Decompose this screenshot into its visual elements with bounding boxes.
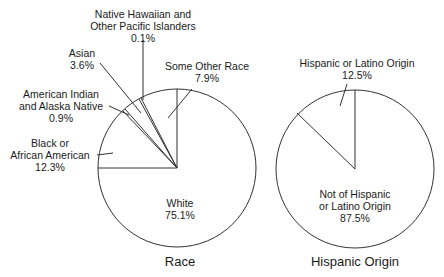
label-white: White 75.1% — [155, 197, 205, 221]
label-american-indian: American Indian and Alaska Native 0.9% — [14, 88, 108, 124]
label-some-other: Some Other Race 7.9% — [162, 60, 252, 84]
leader-line — [168, 89, 192, 118]
label-asian: Asian 3.6% — [62, 47, 102, 71]
race-chart-title: Race — [150, 254, 210, 269]
label-hispanic: Hispanic or Latino Origin 12.5% — [292, 57, 422, 81]
label-black: Black or African American 12.3% — [4, 137, 96, 173]
label-not-hispanic: Not of Hispanic or Latino Origin 87.5% — [305, 188, 405, 224]
hispanic-chart-title: Hispanic Origin — [300, 254, 410, 269]
label-nhpi: Native Hawaiian and Other Pacific Island… — [88, 8, 198, 44]
leader-line — [340, 84, 347, 106]
hispanic-slice-boundary — [297, 113, 355, 169]
